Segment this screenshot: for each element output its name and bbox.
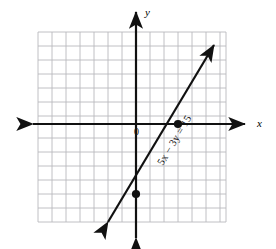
origin-label: 0 xyxy=(134,127,139,137)
point-y-intercept xyxy=(132,190,140,198)
coordinate-plane xyxy=(0,0,276,249)
plotted-line xyxy=(108,45,214,222)
x-axis-label: x xyxy=(257,118,262,129)
y-axis-label: y xyxy=(145,7,150,18)
graph-figure: y x 0 5x − 3y = 15 xyxy=(0,0,276,249)
